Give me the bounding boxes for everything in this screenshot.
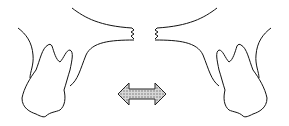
right-gum-outer: [256, 28, 271, 78]
right-gum-notch: [155, 28, 158, 39]
right-gum-lower-line: [155, 40, 219, 86]
tooth-diagram: [0, 0, 289, 126]
right-tooth-outline: [217, 44, 267, 116]
right-tooth-group: [155, 8, 271, 117]
left-gum-outer: [18, 28, 33, 78]
left-tooth-outline: [22, 44, 72, 116]
left-gum-notch: [131, 28, 134, 39]
diagram-canvas: [0, 0, 289, 126]
right-gum-upper-line: [157, 8, 217, 28]
double-arrow-icon: [118, 83, 166, 105]
left-gum-lower-line: [70, 40, 134, 86]
left-tooth-group: [18, 8, 134, 117]
left-gum-upper-line: [72, 8, 132, 28]
